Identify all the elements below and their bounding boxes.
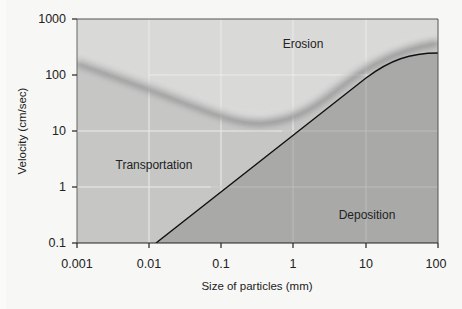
y-tick-1000: 1000: [38, 12, 66, 26]
x-tick-0-001: 0.001: [61, 257, 92, 271]
y-tick-0-1: 0.1: [49, 236, 66, 250]
y-tick-labels: 1000 100 10 1 0.1: [38, 12, 66, 250]
y-tick-100: 100: [45, 68, 66, 82]
y-tick-10: 10: [52, 124, 66, 138]
x-axis-title: Size of particles (mm): [201, 280, 312, 292]
x-tick-labels: 0.001 0.01 0.1 1 10 100: [61, 257, 446, 271]
x-tick-10: 10: [359, 257, 373, 271]
deposition-label: Deposition: [339, 208, 396, 222]
erosion-label: Erosion: [283, 37, 324, 51]
hjulstrom-chart: 1000 100 10 1 0.1 0.001 0.01 0.1 1 10 10…: [0, 0, 462, 309]
x-tick-1: 1: [290, 257, 297, 271]
y-axis-title: Velocity (cm/sec): [16, 87, 28, 174]
x-tick-100: 100: [426, 257, 447, 271]
x-tick-0-01: 0.01: [137, 257, 161, 271]
transportation-label: Transportation: [116, 158, 193, 172]
x-tick-0-1: 0.1: [212, 257, 229, 271]
y-tick-1: 1: [59, 180, 66, 194]
